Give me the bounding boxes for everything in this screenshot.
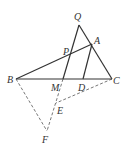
segment-AD xyxy=(83,44,92,79)
label-E: E xyxy=(56,105,63,116)
label-M: M xyxy=(50,82,60,93)
label-A: A xyxy=(93,35,101,46)
segment-BF xyxy=(16,79,47,131)
label-P: P xyxy=(62,46,69,57)
geometry-diagram: Q A P B M D C E F xyxy=(0,0,131,152)
label-Q: Q xyxy=(74,11,82,22)
segment-BA xyxy=(16,44,92,79)
label-D: D xyxy=(77,82,86,93)
segment-QC xyxy=(79,25,112,79)
label-C: C xyxy=(113,75,120,86)
label-B: B xyxy=(7,74,13,85)
label-F: F xyxy=(41,134,49,145)
